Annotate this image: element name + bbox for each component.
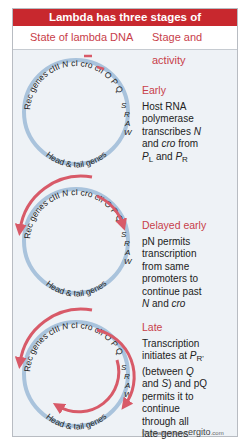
svg-text:Head & tail genes: Head & tail genes — [44, 278, 108, 298]
arrow-late-transcript — [58, 360, 119, 412]
lambda-diagrams: Rec genes cIII N cI cro cII O P Q Head &… — [0, 0, 251, 445]
svg-text:S: S — [121, 230, 127, 239]
svg-text:R: R — [124, 110, 130, 119]
svg-text:R: R — [124, 372, 130, 381]
dna-circle-delayed-early: Rec genes cIII N cI cro cII O P Q Head &… — [20, 176, 133, 298]
svg-text:S: S — [121, 101, 127, 110]
svg-text:A: A — [124, 248, 130, 257]
svg-text:Head & tail genes: Head & tail genes — [44, 149, 108, 169]
svg-text:Head & tail genes: Head & tail genes — [44, 411, 108, 431]
svg-text:S: S — [121, 363, 127, 372]
svg-text:A: A — [124, 119, 130, 128]
svg-text:Rec genes cIII N cI cro cII O: Rec genes cIII N cI cro cII O P Q — [22, 58, 126, 110]
svg-text:A: A — [124, 381, 130, 390]
svg-text:W: W — [124, 257, 133, 266]
svg-text:R: R — [124, 239, 130, 248]
svg-text:W: W — [124, 128, 133, 137]
dna-circle-early: Rec genes cIII N cI cro cII O P Q Head &… — [22, 56, 133, 169]
dna-circle-late: Rec genes cIII N cI cro cII O P Q Head &… — [20, 309, 134, 431]
